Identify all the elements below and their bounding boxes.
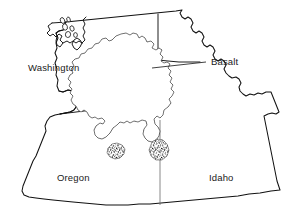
map-figure: Washington Oregon Idaho Basalt — [0, 0, 297, 223]
island-shape — [65, 31, 71, 38]
label-washington: Washington — [28, 62, 79, 73]
label-idaho: Idaho — [209, 172, 234, 183]
label-oregon: Oregon — [57, 172, 90, 183]
label-basalt: Basalt — [211, 56, 239, 67]
map-canvas: Washington Oregon Idaho Basalt — [0, 0, 297, 223]
island-shape — [73, 32, 77, 37]
